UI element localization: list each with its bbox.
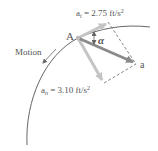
point-a-label: A <box>66 30 74 42</box>
motion-label: Motion <box>15 47 42 57</box>
tangential-value: = 2.75 ft/s <box>82 8 122 18</box>
resultant-acceleration-label: a <box>140 59 145 70</box>
acceleration-diagram: A α Motion a at = 2.75 ft/s2 an = 3.10 f… <box>0 0 158 151</box>
point-a-dot <box>76 36 80 40</box>
normal-exponent: 2 <box>87 85 90 91</box>
normal-value: = 3.10 ft/s <box>48 85 88 95</box>
angle-alpha-label: α <box>98 34 105 46</box>
tangential-acceleration-label: at = 2.75 ft/s2 <box>76 8 124 19</box>
normal-acceleration-label: an = 3.10 ft/s2 <box>41 85 90 96</box>
tangential-exponent: 2 <box>121 8 124 14</box>
motion-direction-arrow <box>43 49 56 63</box>
dashed-line-normal-to-resultant <box>104 64 136 83</box>
